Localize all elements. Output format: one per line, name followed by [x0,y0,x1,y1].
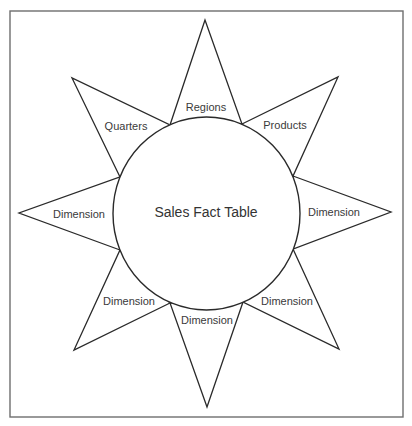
label-dimension-bottom-left: Dimension [103,295,155,307]
star-schema-diagram: Sales Fact Table Regions Products Dimens… [0,0,412,426]
label-dimension-left: Dimension [53,208,105,220]
fact-table-label: Sales Fact Table [154,204,257,220]
label-quarters: Quarters [105,120,148,132]
label-dimension-bottom-right: Dimension [261,295,313,307]
label-dimension-bottom: Dimension [181,314,233,326]
label-regions: Regions [186,101,227,113]
label-products: Products [263,119,307,131]
label-dimension-right: Dimension [308,206,360,218]
